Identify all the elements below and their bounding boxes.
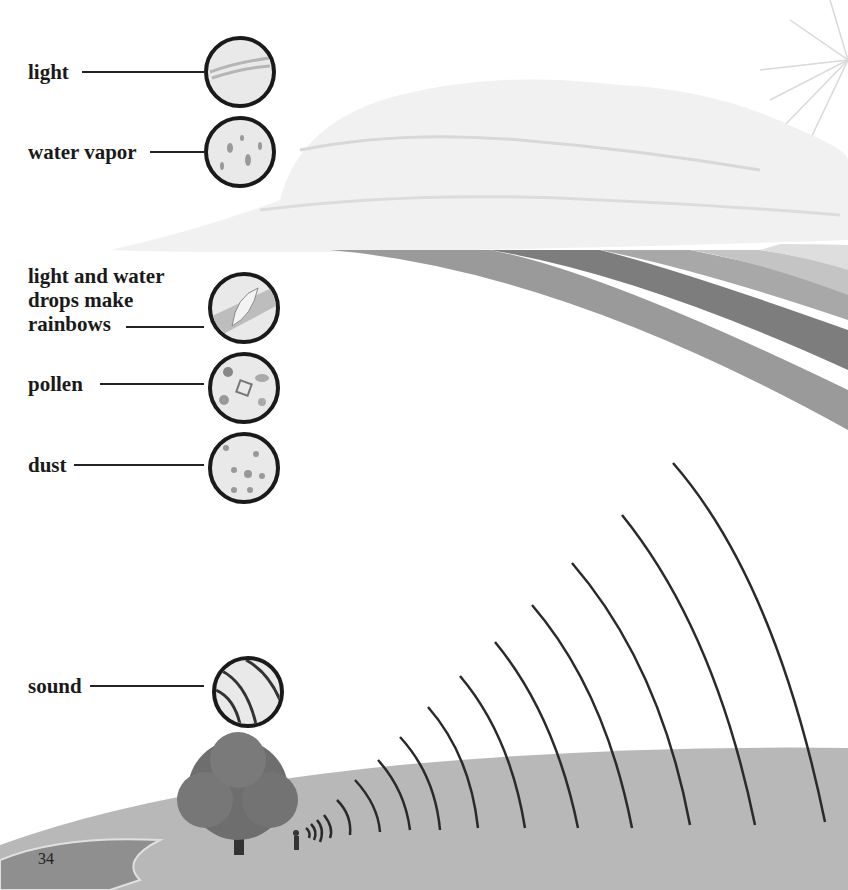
sound-waves-icon xyxy=(212,656,284,728)
label-pollen: pollen xyxy=(28,372,83,396)
label-sound: sound xyxy=(28,674,82,698)
leader-line-sound xyxy=(90,685,204,687)
rainbow xyxy=(330,244,848,430)
label-water-vapor: water vapor xyxy=(28,140,137,164)
illustration-scene xyxy=(0,0,848,890)
rainbow-drop-icon xyxy=(208,272,280,344)
leader-line-rainbows xyxy=(126,326,204,328)
page-number: 34 xyxy=(38,850,54,868)
leader-line-dust xyxy=(74,464,204,466)
label-dust: dust xyxy=(28,453,67,477)
pollen-grains-icon xyxy=(208,352,280,424)
water-droplets-icon xyxy=(204,116,276,188)
leader-line-water-vapor xyxy=(150,151,204,153)
dust-particles-icon xyxy=(208,432,280,504)
leader-line-light xyxy=(82,71,204,73)
label-light: light xyxy=(28,60,69,84)
light-rays-icon xyxy=(204,36,276,108)
leader-line-pollen xyxy=(100,383,204,385)
